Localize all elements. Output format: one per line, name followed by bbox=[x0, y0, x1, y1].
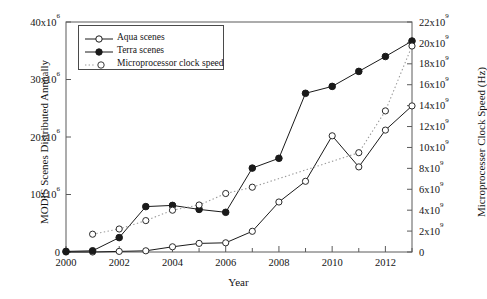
y-tick-label-right: 20x109 bbox=[419, 33, 449, 48]
data-point bbox=[169, 244, 175, 250]
legend-marker-aqua-scenes bbox=[84, 31, 114, 43]
data-point bbox=[169, 207, 175, 213]
data-point bbox=[116, 234, 123, 241]
series-aqua-scenes bbox=[63, 103, 415, 255]
data-point bbox=[276, 155, 283, 162]
data-point bbox=[143, 248, 149, 254]
series-microprocessor-clock-speed bbox=[90, 43, 416, 237]
y-tick-label-left: 10x106 bbox=[30, 185, 60, 200]
y-axis-ticks-left: 010x10620x10630x10640x106 bbox=[30, 12, 71, 257]
data-point bbox=[409, 43, 415, 49]
data-point bbox=[409, 103, 415, 109]
x-axis-ticks: 2000200220042006200820102012 bbox=[56, 246, 413, 268]
y-tick-label-left: 30x106 bbox=[30, 70, 60, 85]
y-tick-label-right: 6x109 bbox=[419, 180, 444, 195]
data-point bbox=[143, 203, 150, 210]
x-tick-label: 2006 bbox=[215, 257, 236, 268]
data-point bbox=[249, 165, 256, 172]
x-tick-label: 2002 bbox=[109, 257, 130, 268]
legend-item: Microprocessor clock speed bbox=[84, 56, 218, 69]
data-point bbox=[382, 53, 389, 60]
data-point bbox=[382, 127, 388, 133]
legend-label-terra-scenes: Terra scenes bbox=[114, 45, 164, 55]
data-point bbox=[329, 133, 335, 139]
y-tick-label-right: 0 bbox=[419, 247, 424, 258]
legend-label-microprocessor-clock-speed: Microprocessor clock speed bbox=[114, 58, 224, 68]
x-tick-label: 2012 bbox=[375, 257, 396, 268]
series-group bbox=[63, 38, 416, 255]
data-point bbox=[143, 218, 149, 224]
y-tick-label-right: 10x109 bbox=[419, 138, 449, 153]
y-tick-label-right: 14x109 bbox=[419, 96, 449, 111]
legend-item: Terra scenes bbox=[84, 43, 218, 56]
y-tick-label-left: 0 bbox=[55, 247, 60, 258]
y-tick-label-right: 12x109 bbox=[419, 117, 449, 132]
data-point bbox=[89, 248, 96, 255]
data-point bbox=[356, 68, 363, 75]
legend-label-aqua-scenes: Aqua scenes bbox=[114, 32, 165, 42]
data-point bbox=[116, 248, 122, 254]
data-point bbox=[90, 231, 96, 237]
y-tick-label-right: 8x109 bbox=[419, 159, 444, 174]
x-tick-label: 2010 bbox=[322, 257, 343, 268]
data-point bbox=[223, 190, 229, 196]
data-point bbox=[196, 240, 202, 246]
legend-marker-terra-scenes bbox=[84, 44, 114, 56]
data-point bbox=[302, 90, 309, 97]
y-tick-label-right: 2x109 bbox=[419, 221, 444, 236]
data-point bbox=[196, 202, 202, 208]
series-terra-scenes bbox=[63, 38, 416, 255]
legend-item: Aqua scenes bbox=[84, 30, 218, 43]
data-point bbox=[356, 150, 362, 156]
series-line bbox=[93, 46, 412, 234]
x-tick-label: 2000 bbox=[56, 257, 77, 268]
data-point bbox=[382, 108, 388, 114]
data-point bbox=[222, 209, 229, 216]
data-point bbox=[116, 226, 122, 232]
legend-marker-microprocessor-clock-speed bbox=[84, 57, 114, 69]
y-tick-label-right: 22x109 bbox=[419, 12, 449, 27]
y-tick-label-right: 16x109 bbox=[419, 75, 449, 90]
data-point bbox=[63, 248, 70, 255]
data-point bbox=[249, 184, 255, 190]
y-tick-label-left: 40x106 bbox=[30, 12, 60, 27]
data-point bbox=[329, 83, 336, 90]
data-point bbox=[249, 228, 255, 234]
y-tick-label-right: 4x109 bbox=[419, 201, 444, 216]
data-point bbox=[276, 199, 282, 205]
y-tick-label-right: 18x109 bbox=[419, 54, 449, 69]
y-tick-label-left: 20x106 bbox=[30, 127, 60, 142]
data-point bbox=[302, 178, 308, 184]
x-tick-label: 2004 bbox=[162, 257, 184, 268]
x-tick-label: 2008 bbox=[268, 257, 289, 268]
data-point bbox=[223, 240, 229, 246]
data-point bbox=[356, 164, 362, 170]
chart-legend: Aqua scenes Terra scenes Microprocessor … bbox=[78, 25, 224, 70]
